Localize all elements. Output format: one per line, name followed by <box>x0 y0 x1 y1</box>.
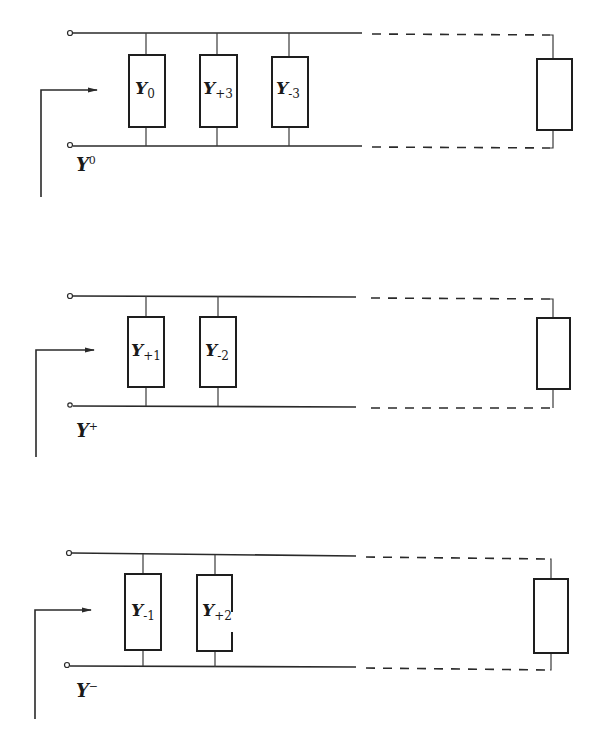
network-label-positive: Y+ <box>76 420 98 441</box>
bottom-rail <box>73 406 356 407</box>
current-arrow <box>35 610 91 719</box>
bottom-rail-dashed <box>372 147 550 148</box>
branch-label-y+2: Y+2 <box>202 600 232 623</box>
top-rail-dashed <box>371 298 550 299</box>
branch-label-y+3: Y+3 <box>203 78 233 101</box>
branch-label-y0: Y0 <box>135 78 155 101</box>
branch-label-y-3: Y-3 <box>276 78 300 101</box>
negative-sequence-network <box>35 551 568 720</box>
terminal-top <box>68 294 73 299</box>
terminal-top <box>67 551 72 556</box>
load-box <box>537 318 570 389</box>
top-rail <box>72 553 356 556</box>
bottom-rail-dashed <box>366 668 550 670</box>
terminal-bottom <box>68 403 72 407</box>
bottom-rail <box>70 666 356 667</box>
terminal-bottom <box>68 143 73 148</box>
positive-sequence-network <box>36 294 570 458</box>
sequence-network-diagram <box>0 0 608 753</box>
top-rail-dashed <box>372 34 550 35</box>
load-box <box>534 579 568 653</box>
branch-label-y+1: Y+1 <box>131 340 161 363</box>
top-rail <box>73 296 356 297</box>
load-box <box>537 59 572 130</box>
terminal-bottom <box>65 663 70 668</box>
network-label-zero: Y0 <box>76 154 96 175</box>
network-label-negative: Y− <box>76 680 98 701</box>
terminal-top <box>68 31 73 36</box>
branch-label-y-2: Y-2 <box>205 340 229 363</box>
branch-label-y-1: Y-1 <box>131 600 155 623</box>
top-rail-dashed <box>366 557 550 559</box>
zero-sequence-network <box>41 31 572 198</box>
